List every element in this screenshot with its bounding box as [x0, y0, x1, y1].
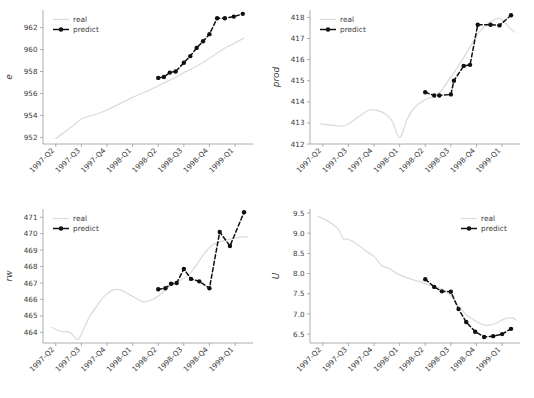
x-tick-label: 1997-Q2	[295, 345, 324, 374]
x-tick-label: 1998-Q2	[397, 146, 426, 175]
x-tick-label: 1998-Q3	[423, 146, 452, 175]
y-axis-label: prod	[271, 66, 281, 88]
predict-data-point	[500, 332, 504, 336]
chart-panel-prod: 4124134144154164174181997-Q21997-Q31997-…	[267, 0, 534, 199]
y-tick-label: 471	[24, 213, 38, 222]
predict-data-point	[215, 16, 219, 20]
y-tick-label: 962	[24, 23, 38, 32]
y-tick-label: 958	[24, 67, 38, 76]
predict-data-point	[156, 76, 160, 80]
predict-data-point	[449, 290, 453, 294]
x-tick-label: 1998-Q3	[156, 345, 185, 374]
predict-data-point	[452, 78, 456, 82]
y-tick-label: 414	[291, 97, 305, 106]
x-tick-label: 1997-Q4	[346, 345, 375, 374]
y-tick-label: 8.5	[293, 249, 304, 258]
predict-data-point	[174, 281, 178, 285]
y-tick-label: 464	[24, 328, 38, 337]
y-tick-label: 415	[291, 76, 305, 85]
predict-data-point	[432, 93, 436, 97]
predict-data-point	[497, 23, 501, 27]
predict-data-point	[207, 32, 211, 36]
predict-data-point	[509, 327, 513, 331]
x-tick-label: 1997-Q3	[53, 146, 82, 175]
plot-prod: 4124134144154164174181997-Q21997-Q31997-…	[267, 0, 534, 199]
plot-e: 9529549569589609621997-Q21997-Q31997-Q41…	[0, 0, 267, 199]
y-tick-label: 956	[24, 89, 38, 98]
predict-data-point	[437, 93, 441, 97]
predict-data-point	[423, 90, 427, 94]
legend-label-real: real	[340, 15, 354, 24]
y-tick-label: 7.0	[293, 310, 305, 319]
legend-predict-marker	[326, 27, 330, 31]
legend: realpredict	[49, 13, 109, 35]
predict-data-point	[449, 92, 453, 96]
legend-label-real: real	[481, 214, 495, 223]
chart-panel-u: 6.57.07.58.08.59.09.51997-Q21997-Q31997-…	[267, 199, 534, 398]
x-tick-label: 1997-Q2	[28, 345, 57, 374]
predict-data-point	[423, 277, 427, 281]
x-tick-label: 1998-Q3	[156, 146, 185, 175]
x-tick-label: 1998-Q3	[423, 345, 452, 374]
y-tick-label: 6.5	[293, 330, 304, 339]
predict-data-point	[491, 334, 495, 338]
y-tick-label: 465	[24, 311, 38, 320]
y-tick-label: 416	[291, 55, 305, 64]
y-tick-label: 9.5	[293, 209, 304, 218]
y-tick-label: 413	[291, 118, 305, 127]
series-predict	[158, 212, 244, 289]
legend-label-predict: predict	[481, 224, 507, 233]
predict-data-point	[242, 210, 246, 214]
series-predict	[425, 15, 511, 95]
legend-label-predict: predict	[340, 25, 366, 34]
y-tick-label: 960	[24, 45, 38, 54]
x-tick-label: 1997-Q2	[295, 146, 324, 175]
x-tick-label: 1998-Q4	[181, 345, 210, 374]
x-tick-label: 1998-Q4	[448, 345, 477, 374]
predict-data-point	[488, 23, 492, 27]
x-tick-label: 1999-Q1	[207, 146, 236, 175]
predict-data-point	[189, 277, 193, 281]
predict-data-point	[173, 69, 177, 73]
predict-data-point	[223, 16, 227, 20]
series-real	[56, 38, 244, 139]
predict-data-point	[482, 335, 486, 339]
x-tick-label: 1997-Q4	[79, 146, 108, 175]
x-tick-label: 1998-Q2	[130, 146, 159, 175]
figure-canvas: 9529549569589609621997-Q21997-Q31997-Q41…	[0, 0, 534, 398]
y-tick-label: 9.0	[293, 229, 305, 238]
predict-data-point	[228, 244, 232, 248]
y-tick-label: 418	[291, 13, 305, 22]
predict-data-point	[201, 39, 205, 43]
predict-data-point	[169, 282, 173, 286]
chart-panel-rw: 4644654664674684694704711997-Q21997-Q319…	[0, 199, 267, 398]
predict-data-point	[440, 289, 444, 293]
predict-data-point	[241, 12, 245, 16]
predict-data-point	[468, 63, 472, 67]
x-tick-label: 1997-Q4	[346, 146, 375, 175]
y-tick-label: 952	[24, 133, 38, 142]
predict-data-point	[197, 279, 201, 283]
predict-data-point	[207, 286, 211, 290]
x-tick-label: 1997-Q2	[28, 146, 57, 175]
predict-data-point	[456, 307, 460, 311]
y-axis-label: rw	[4, 270, 14, 282]
legend-label-real: real	[73, 15, 87, 24]
series-real	[52, 237, 248, 340]
y-tick-label: 467	[24, 279, 38, 288]
x-tick-label: 1998-Q1	[104, 345, 133, 374]
series-real	[320, 18, 515, 137]
predict-data-point	[162, 75, 166, 79]
chart-panel-e: 9529549569589609621997-Q21997-Q31997-Q41…	[0, 0, 267, 199]
predict-data-point	[461, 64, 465, 68]
predict-data-point	[473, 330, 477, 334]
x-tick-label: 1998-Q1	[104, 146, 133, 175]
legend-predict-marker	[59, 27, 63, 31]
x-tick-label: 1999-Q1	[474, 146, 503, 175]
x-tick-label: 1997-Q3	[320, 345, 349, 374]
y-tick-label: 470	[24, 229, 38, 238]
x-tick-label: 1998-Q1	[371, 146, 400, 175]
predict-data-point	[232, 14, 236, 18]
y-tick-label: 954	[24, 111, 38, 120]
y-tick-label: 412	[291, 140, 305, 149]
